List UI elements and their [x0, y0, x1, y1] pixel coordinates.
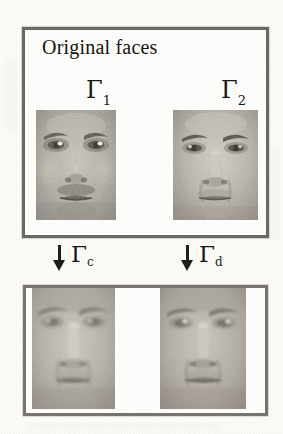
face-photo-transformed-d — [160, 288, 246, 409]
gamma-symbol: Γ — [86, 76, 103, 104]
arrow-gamma-d-label: Γd — [199, 243, 223, 266]
gamma-2-label: Γ2 — [221, 78, 246, 104]
gamma-symbol: Γ — [71, 241, 87, 267]
gamma-subscript: c — [87, 255, 94, 269]
face-photo-transformed-c — [32, 288, 115, 409]
face-photo-subject-1 — [36, 110, 116, 220]
page-title: Original faces — [42, 36, 158, 58]
gamma-symbol: Γ — [199, 241, 215, 267]
gamma-symbol: Γ — [221, 76, 238, 104]
gamma-subscript: 2 — [238, 93, 246, 108]
arrow-down-icon — [180, 244, 195, 274]
arrow-gamma-c-label: Γc — [71, 243, 94, 266]
arrow-down-icon — [52, 244, 67, 274]
gamma-subscript: 1 — [103, 93, 111, 108]
figure-root: Original faces Γ1 Γ2 — [0, 0, 283, 434]
face-photo-subject-2 — [173, 110, 258, 220]
gamma-subscript: d — [215, 255, 223, 269]
gamma-1-label: Γ1 — [86, 78, 111, 104]
arrow-gamma-d: Γd — [180, 244, 223, 278]
arrow-gamma-c: Γc — [52, 244, 94, 278]
